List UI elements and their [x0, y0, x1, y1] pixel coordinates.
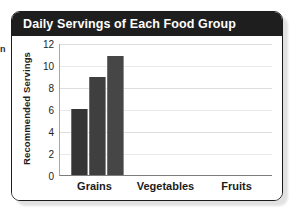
y-tick-label: 0 [48, 171, 54, 182]
bar [89, 77, 106, 175]
chart-card: Daily Servings of Each Food Group Recomm… [11, 11, 283, 201]
plot-container: Recommended Servings 024681012 GrainsVeg… [12, 36, 282, 201]
y-axis-title: Recommended Servings [19, 44, 33, 172]
bar [107, 56, 124, 175]
bar [71, 109, 88, 175]
x-axis-category-labels: GrainsVegetablesFruits [59, 178, 272, 198]
y-axis-tick-labels: 024681012 [34, 36, 56, 176]
edge-text-fragment: n [0, 44, 6, 54]
y-tick-label: 6 [48, 105, 54, 116]
y-tick-label: 10 [43, 61, 54, 72]
x-tick-label: Vegetables [137, 180, 194, 192]
page-title: Daily Servings of Each Food Group [12, 17, 236, 31]
y-tick-label: 2 [48, 149, 54, 160]
bar-series [60, 44, 272, 175]
x-tick-label: Fruits [221, 180, 252, 192]
x-tick-label: Grains [77, 180, 112, 192]
y-tick-label: 4 [48, 127, 54, 138]
plot-area [59, 44, 272, 176]
y-tick-label: 8 [48, 83, 54, 94]
chart-title-bar: Daily Servings of Each Food Group [12, 12, 282, 36]
y-axis-title-label: Recommended Servings [21, 52, 32, 165]
y-tick-label: 12 [43, 39, 54, 50]
